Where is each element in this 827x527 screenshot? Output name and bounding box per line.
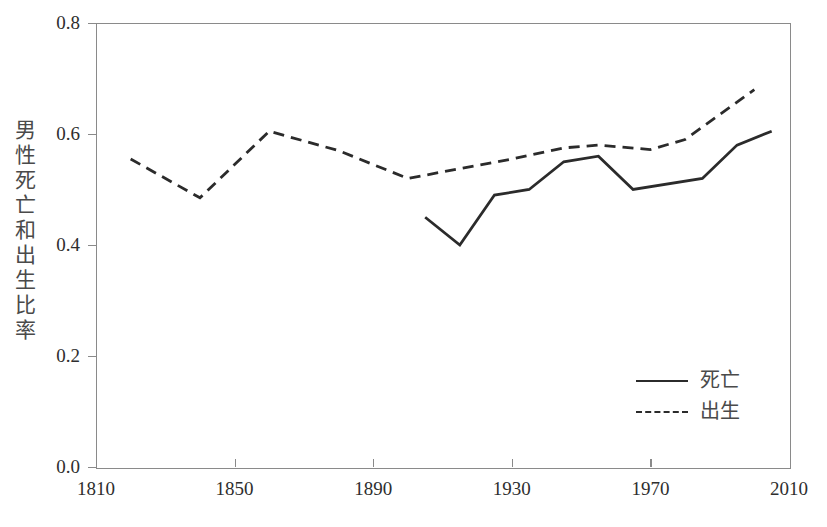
y-tick-mark (88, 134, 96, 135)
legend-item-label: 死亡 (700, 368, 740, 392)
y-tick-label: 0.0 (36, 457, 80, 476)
legend-item-label: 出生 (700, 399, 740, 423)
x-tick-label: 1970 (615, 479, 685, 498)
series-line-births (131, 90, 755, 198)
series-line-deaths (425, 131, 771, 245)
y-tick-label: 0.8 (36, 13, 80, 32)
x-tick-label: 1850 (200, 479, 270, 498)
x-tick-label: 2010 (754, 479, 824, 498)
x-tick-label: 1930 (477, 479, 547, 498)
legend-item[interactable]: 死亡 (636, 368, 786, 399)
y-tick-mark (88, 245, 96, 246)
legend-line-icon (636, 380, 688, 382)
legend-line-icon (636, 411, 688, 413)
x-tick-mark (373, 459, 374, 467)
x-tick-mark (512, 459, 513, 467)
y-tick-label: 0.6 (36, 124, 80, 143)
x-tick-label: 1810 (61, 479, 131, 498)
x-tick-mark (235, 459, 236, 467)
y-axis-title: 男性死亡和出生比率 (8, 118, 42, 343)
x-tick-label: 1890 (338, 479, 408, 498)
y-tick-label: 0.4 (36, 235, 80, 254)
legend-item[interactable]: 出生 (636, 399, 786, 430)
x-tick-mark (650, 459, 651, 467)
y-tick-mark (88, 467, 96, 468)
y-tick-label: 0.2 (36, 346, 80, 365)
y-tick-mark (88, 356, 96, 357)
y-tick-mark (88, 23, 96, 24)
chart-legend: 死亡出生 (636, 368, 786, 430)
chart-figure: 男性死亡和出生比率 0.00.20.40.60.8 18101850189019… (0, 0, 827, 527)
